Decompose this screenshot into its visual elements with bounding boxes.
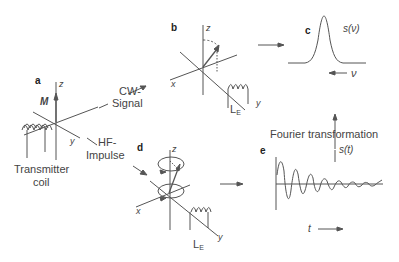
panel-d-axis-y: y [218,233,223,242]
panel-b-axis-x: x [171,80,176,89]
panel-c-label: c [305,26,311,36]
panel-b-coil-label: LE [230,104,241,116]
hf-impulse-label-2: Impulse [86,150,125,161]
transmitter-coil-label: Transmitter [14,164,69,175]
panel-a-axis-y: y [70,137,75,146]
panel-b-label: b [171,23,177,33]
panel-b-axis-y: y [256,99,261,108]
panel-b-axis-z: z [206,24,211,33]
panel-a-label: a [35,76,41,86]
hf-impulse-label-1: HF- [98,137,116,148]
cw-signal-label-2: Signal [112,98,143,109]
frequency-axis-label: ν [351,68,357,79]
panel-e-fid [276,157,383,231]
fourier-transformation-label: Fourier transformation [270,129,378,140]
time-axis-label: t [308,224,311,234]
spectrum-signal-label: s(ν) [343,24,360,34]
panel-b-axes [170,25,248,110]
panel-e-label: e [260,146,266,156]
panel-d-coil-label: LE [193,239,204,251]
panel-d-label: d [137,143,143,153]
cw-signal-label-1: CW- [119,86,141,97]
fid-signal-label: s(t) [339,145,353,155]
transmitter-coil-label-2: coil [33,177,50,188]
magnetization-vector-label: M [40,97,48,107]
panel-d-axes [136,150,218,236]
panel-a-axis-z: z [59,80,64,89]
panel-d-axis-x: x [136,207,141,216]
panel-d-axis-z: z [172,145,177,154]
